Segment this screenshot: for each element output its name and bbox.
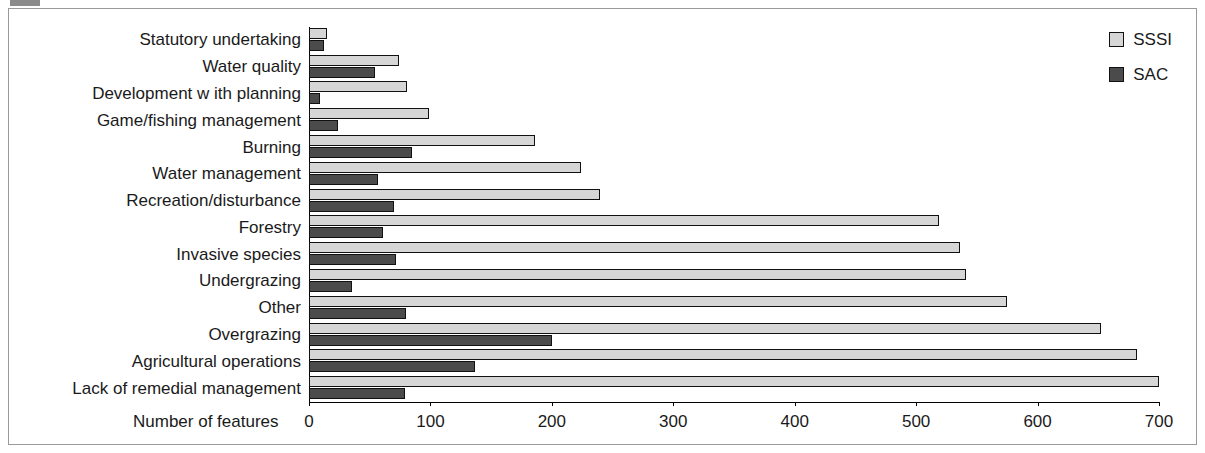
x-axis-tick	[795, 402, 796, 406]
bar-sac	[309, 308, 406, 319]
bar-sssi	[309, 28, 327, 39]
plot-area	[309, 27, 1159, 402]
x-axis-tick-label: 0	[304, 412, 313, 432]
x-axis-tick-label: 300	[659, 412, 687, 432]
legend-swatch-sssi-icon	[1109, 32, 1124, 47]
bar-sac	[309, 147, 412, 158]
legend-item-sssi: SSSI	[1109, 31, 1172, 48]
bar-sac	[309, 174, 378, 185]
category-label: Forestry	[239, 219, 301, 236]
bar-sac	[309, 93, 320, 104]
x-axis-title: Number of features	[133, 412, 279, 432]
bar-sac	[309, 40, 324, 51]
bar-sssi	[309, 108, 429, 119]
x-axis-tick	[552, 402, 553, 406]
legend-label-sssi: SSSI	[1133, 31, 1172, 48]
bar-sac	[309, 254, 396, 265]
bar-sssi	[309, 323, 1101, 334]
bar-sac	[309, 388, 405, 399]
category-label: Overgrazing	[208, 326, 301, 343]
chart-legend: SSSI SAC	[1109, 31, 1172, 101]
legend-item-sac: SAC	[1109, 66, 1172, 83]
x-axis-tick	[1038, 402, 1039, 406]
bar-sac	[309, 67, 375, 78]
bar-sac	[309, 227, 383, 238]
category-label: Other	[258, 299, 301, 316]
bar-sssi	[309, 162, 581, 173]
category-label: Development w ith planning	[92, 85, 301, 102]
bar-sac	[309, 281, 352, 292]
category-label: Undergrazing	[199, 272, 301, 289]
bar-sssi	[309, 81, 407, 92]
x-axis-tick-label: 700	[1145, 412, 1173, 432]
x-axis-tick	[309, 402, 310, 406]
category-label: Statutory undertaking	[139, 31, 301, 48]
bar-sac	[309, 335, 552, 346]
bar-sssi	[309, 242, 960, 253]
x-axis-tick	[916, 402, 917, 406]
x-axis-tick	[1159, 402, 1160, 406]
bar-sac	[309, 120, 338, 131]
x-axis-tick-label: 500	[902, 412, 930, 432]
bar-sssi	[309, 269, 966, 280]
bar-sssi	[309, 349, 1137, 360]
category-axis-labels: Statutory undertakingWater qualityDevelo…	[23, 27, 309, 402]
category-label: Agricultural operations	[132, 353, 301, 370]
category-label: Water quality	[202, 58, 301, 75]
bar-sac	[309, 361, 475, 372]
x-axis-tick-label: 200	[538, 412, 566, 432]
x-axis-tick-label: 600	[1023, 412, 1051, 432]
category-label: Water management	[152, 165, 301, 182]
x-axis-tick	[673, 402, 674, 406]
x-axis-tick	[430, 402, 431, 406]
category-label: Invasive species	[176, 246, 301, 263]
x-axis-tick-label: 400	[781, 412, 809, 432]
chart-screenshot: Statutory undertakingWater qualityDevelo…	[0, 0, 1205, 453]
category-label: Recreation/disturbance	[126, 192, 301, 209]
legend-label-sac: SAC	[1133, 66, 1168, 83]
bar-sssi	[309, 55, 399, 66]
bar-sac	[309, 201, 394, 212]
bar-sssi	[309, 376, 1159, 387]
bar-sssi	[309, 135, 535, 146]
category-label: Burning	[242, 139, 301, 156]
bar-sssi	[309, 296, 1007, 307]
x-axis-line	[309, 402, 1160, 403]
bar-sssi	[309, 189, 600, 200]
x-axis-tick-label: 100	[416, 412, 444, 432]
category-label: Game/fishing management	[97, 112, 301, 129]
legend-swatch-sac-icon	[1109, 67, 1124, 82]
chart-frame: Statutory undertakingWater qualityDevelo…	[8, 8, 1197, 445]
category-label: Lack of remedial management	[72, 380, 301, 397]
bar-sssi	[309, 215, 939, 226]
top-edge-artifact	[10, 0, 40, 6]
